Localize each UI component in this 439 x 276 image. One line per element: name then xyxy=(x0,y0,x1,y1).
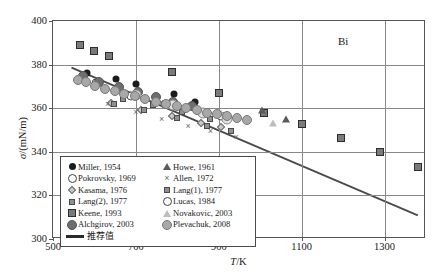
legend-label: Novakovic, 2003 xyxy=(173,209,232,218)
open-circle-icon xyxy=(161,196,173,207)
x-axis-unit: /K xyxy=(236,256,247,267)
legend-label: Allen, 1972 xyxy=(173,174,214,183)
y-tick-label: 360 xyxy=(31,103,47,114)
y-axis-unit: /(mN/m) xyxy=(17,117,28,154)
data-point xyxy=(414,163,422,171)
gridline-vertical xyxy=(385,21,386,237)
filled-circle-icon xyxy=(66,161,78,172)
line-swatch-icon xyxy=(66,235,84,238)
legend-label: Lang(2), 1977 xyxy=(78,197,127,206)
data-point xyxy=(119,89,129,99)
data-point xyxy=(242,115,252,125)
element-annotation: Bi xyxy=(338,35,348,47)
legend-label: Keene, 1993 xyxy=(78,209,121,218)
gridline-horizontal xyxy=(53,65,424,66)
data-point xyxy=(269,120,277,127)
legend-item: Lang(2), 1977 xyxy=(66,196,155,208)
y-tick xyxy=(49,239,53,240)
data-point: × xyxy=(133,108,138,117)
legend-label: Lang(1), 1977 xyxy=(173,186,222,195)
y-tick-label: 300 xyxy=(31,234,47,245)
legend-item: Keene, 1993 xyxy=(66,207,155,219)
data-point xyxy=(151,97,161,107)
cross-icon: × xyxy=(161,173,173,184)
data-point xyxy=(298,120,306,128)
y-tick xyxy=(49,108,53,109)
legend-label: Lucas, 1984 xyxy=(173,197,215,206)
legend-label: Howe, 1961 xyxy=(173,163,215,172)
dark-gray-circle-icon xyxy=(66,219,78,230)
data-point xyxy=(337,134,345,142)
data-point xyxy=(100,84,110,94)
data-point xyxy=(181,103,191,113)
scatter-chart: σ/(mN/m) 5007009001100130030032034036038… xyxy=(0,0,439,276)
y-tick-label: 400 xyxy=(31,16,47,27)
legend-item: Pokrovsky, 1969 xyxy=(66,173,155,185)
data-point xyxy=(174,115,180,121)
small-square-icon xyxy=(161,184,173,195)
data-point xyxy=(215,89,223,97)
y-tick xyxy=(49,152,53,153)
gridline-horizontal xyxy=(53,152,424,153)
y-tick xyxy=(49,65,53,66)
data-point xyxy=(232,113,242,123)
x-tick-label: 1100 xyxy=(291,242,312,253)
data-point: × xyxy=(208,127,213,136)
data-point xyxy=(222,111,232,121)
legend-item: Lang(1), 1977 xyxy=(161,184,250,196)
legend-label: Kasama, 1976 xyxy=(78,186,127,195)
x-tick-label: 500 xyxy=(45,242,61,253)
y-tick-label: 380 xyxy=(31,59,47,70)
legend-item: Miller, 1954 xyxy=(66,161,155,173)
legend-item-trendline: 推荐值 xyxy=(66,231,250,243)
diamond-icon xyxy=(66,184,78,195)
open-circle-icon xyxy=(66,173,78,184)
x-tick-label: 1300 xyxy=(374,242,395,253)
gridline-vertical xyxy=(302,21,303,237)
data-point xyxy=(172,101,182,111)
legend-label: Alchgirov, 2003 xyxy=(78,220,134,229)
y-tick xyxy=(49,21,53,22)
legend-item: Novakovic, 2003 xyxy=(161,207,250,219)
open-triangle-icon xyxy=(161,208,173,219)
y-tick-label: 320 xyxy=(31,190,47,201)
data-point: × xyxy=(159,115,164,124)
data-point: × xyxy=(185,121,190,130)
legend-column-left: Miller, 1954Pokrovsky, 1969Kasama, 1976L… xyxy=(66,161,155,231)
legend-item: Howe, 1961 xyxy=(161,161,250,173)
legend: Miller, 1954Pokrovsky, 1969Kasama, 1976L… xyxy=(60,156,256,247)
legend-item: Lucas, 1984 xyxy=(161,196,250,208)
data-point: × xyxy=(105,100,110,109)
legend-item: ×Allen, 1972 xyxy=(161,173,250,185)
legend-label: Pokrovsky, 1969 xyxy=(78,174,136,183)
triangle-icon xyxy=(161,161,173,172)
data-point xyxy=(76,41,84,49)
small-square-icon xyxy=(66,196,78,207)
x-axis-title: T/K xyxy=(52,256,425,267)
data-point xyxy=(161,99,171,109)
legend-column-right: Howe, 1961×Allen, 1972Lang(1), 1977Lucas… xyxy=(161,161,250,231)
data-point xyxy=(90,81,100,91)
y-tick xyxy=(49,195,53,196)
y-axis-title: σ/(mN/m) xyxy=(17,78,28,198)
data-point xyxy=(140,94,150,104)
data-point xyxy=(212,109,222,119)
data-point xyxy=(282,116,290,123)
data-point xyxy=(192,105,202,115)
data-point xyxy=(130,91,140,101)
data-point xyxy=(105,52,113,60)
data-point xyxy=(202,108,212,118)
filled-square-icon xyxy=(66,208,78,219)
data-point xyxy=(141,107,147,113)
legend-label: Plevachuk, 2008 xyxy=(173,220,230,229)
legend-item: Alchgirov, 2003 xyxy=(66,219,155,231)
data-point: × xyxy=(234,133,239,142)
data-point xyxy=(258,106,266,113)
data-point xyxy=(90,47,98,55)
legend-label: Miller, 1954 xyxy=(78,163,121,172)
gray-circle-icon xyxy=(161,219,173,230)
legend-item: Kasama, 1976 xyxy=(66,184,155,196)
y-tick-label: 340 xyxy=(31,147,47,158)
data-point xyxy=(168,68,176,76)
data-point xyxy=(111,101,117,107)
